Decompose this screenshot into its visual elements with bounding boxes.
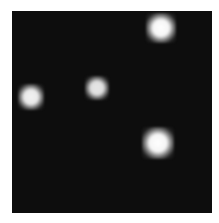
spot-top-right [146, 13, 176, 43]
spot-left [18, 84, 44, 110]
spot-middle [85, 76, 109, 100]
dark-field [12, 11, 212, 213]
spot-bottom-right [142, 127, 174, 159]
